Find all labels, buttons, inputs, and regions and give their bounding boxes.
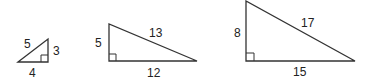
horizontal-leg-label: 4 <box>29 66 36 80</box>
hypotenuse-label: 13 <box>149 26 163 40</box>
triangle-8-15-17: 8 17 15 <box>234 1 355 79</box>
right-angle-marker <box>246 53 254 61</box>
horizontal-leg-label: 12 <box>147 66 161 80</box>
vertical-leg-label: 8 <box>234 26 241 40</box>
right-triangles-diagram: 5 3 4 5 13 12 8 17 15 <box>0 0 373 81</box>
triangle-outline <box>246 1 355 61</box>
right-angle-marker <box>41 55 48 62</box>
vertical-leg-label: 5 <box>95 36 102 50</box>
hypotenuse-label: 5 <box>24 37 31 51</box>
hypotenuse-label: 17 <box>301 16 315 30</box>
triangle-3-4-5: 5 3 4 <box>18 37 60 80</box>
triangle-5-12-13: 5 13 12 <box>95 24 197 80</box>
vertical-leg-label: 3 <box>53 44 60 58</box>
right-angle-marker <box>109 54 116 61</box>
triangle-outline <box>18 39 48 62</box>
diagram-svg: 5 3 4 5 13 12 8 17 15 <box>0 0 373 81</box>
horizontal-leg-label: 15 <box>293 65 307 79</box>
